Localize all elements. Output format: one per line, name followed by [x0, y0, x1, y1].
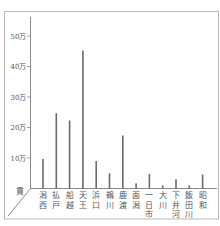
bar-2 [56, 113, 58, 188]
chart-frame [5, 12, 219, 220]
bar-5 [95, 161, 97, 188]
bar-4 [82, 51, 84, 189]
category-label: 鵜川 [106, 190, 114, 210]
y-tick-label: 10万 [11, 155, 27, 163]
bar-6 [109, 173, 111, 188]
y-tick-label: 40万 [11, 63, 27, 71]
category-label: 面潟 [132, 191, 140, 210]
category-label: 天王 [79, 191, 87, 210]
category-label: 鹿渡 [119, 190, 127, 210]
bar-1 [42, 159, 44, 189]
bar-9 [149, 174, 151, 189]
y-tick-label: 50万 [11, 33, 27, 41]
y-unit-label: 貫 [16, 187, 24, 196]
category-label: 下井河 [172, 191, 180, 219]
bar-8 [135, 183, 137, 188]
category-label: 一日市 [145, 191, 153, 219]
bar-chart: 10万20万30万40万50万 貫 潟西払戸船越天王浜口鵜川鹿渡面潟一日市大川下… [0, 0, 220, 226]
category-label: 大川 [159, 190, 167, 210]
bar-10 [162, 185, 164, 188]
bar-3 [69, 120, 71, 188]
chart-figure: 10万20万30万40万50万 貫 潟西払戸船越天王浜口鵜川鹿渡面潟一日市大川下… [0, 0, 220, 226]
category-label: 浜口 [92, 190, 100, 210]
category-label: 払戸 [52, 190, 60, 210]
y-tick-label: 20万 [11, 124, 27, 132]
category-label: 飯田川 [185, 190, 193, 219]
bar-13 [202, 174, 204, 188]
bar-7 [122, 135, 124, 188]
y-axis-ticks: 10万20万30万40万50万 [11, 33, 31, 163]
bars-group [42, 51, 203, 189]
category-label: 潟西 [39, 190, 47, 210]
category-labels: 潟西払戸船越天王浜口鵜川鹿渡面潟一日市大川下井河飯田川昭和 [39, 190, 207, 219]
category-label: 船越 [66, 190, 74, 210]
bar-11 [175, 179, 177, 188]
category-label: 昭和 [199, 191, 207, 210]
y-tick-label: 30万 [11, 94, 27, 102]
bar-12 [189, 185, 191, 188]
